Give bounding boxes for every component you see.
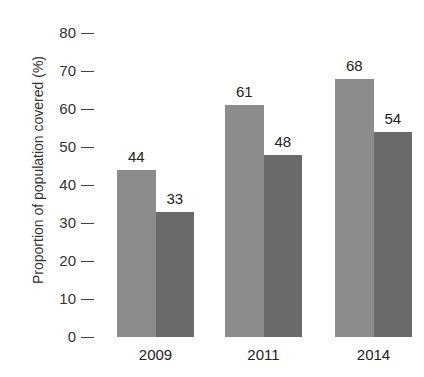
x-category-label: 2009: [116, 346, 196, 363]
y-tick-label: 40: [59, 176, 76, 193]
bar-2014-series-2: [374, 132, 413, 337]
y-tick-label: 70: [59, 62, 76, 79]
bar-value-label: 54: [373, 110, 413, 127]
y-tick: 0: [50, 337, 100, 353]
x-category-label: 2014: [334, 346, 414, 363]
bar-2011-series-2: [264, 155, 303, 337]
bar-2009-series-2: [156, 212, 195, 337]
bar-value-label: 44: [116, 148, 156, 165]
bar-value-label: 48: [263, 133, 303, 150]
bar-value-label: 33: [155, 190, 195, 207]
y-tick-label: 0: [68, 328, 76, 345]
y-tick-mark: [81, 71, 94, 72]
y-tick-mark: [81, 185, 94, 186]
y-tick-label: 50: [59, 138, 76, 155]
bar-value-label: 61: [224, 83, 264, 100]
bar-2014-series-1: [335, 79, 374, 337]
y-tick: 20: [50, 261, 100, 277]
y-tick-mark: [81, 147, 94, 148]
y-tick-label: 20: [59, 252, 76, 269]
y-tick-mark: [81, 337, 94, 338]
y-tick-mark: [81, 109, 94, 110]
y-tick: 30: [50, 223, 100, 239]
x-category-label: 2011: [224, 346, 304, 363]
y-tick-mark: [81, 223, 94, 224]
y-tick-mark: [81, 299, 94, 300]
y-tick: 80: [50, 33, 100, 49]
y-tick-label: 10: [59, 290, 76, 307]
y-tick: 50: [50, 147, 100, 163]
y-tick-label: 60: [59, 100, 76, 117]
y-tick: 70: [50, 71, 100, 87]
bar-value-label: 68: [334, 57, 374, 74]
y-tick: 10: [50, 299, 100, 315]
y-tick-mark: [81, 33, 94, 34]
y-tick: 60: [50, 109, 100, 125]
y-tick-mark: [81, 261, 94, 262]
bar-2011-series-1: [225, 105, 264, 337]
y-tick: 40: [50, 185, 100, 201]
y-tick-label: 30: [59, 214, 76, 231]
bar-2009-series-1: [117, 170, 156, 337]
y-axis-label: Proportion of population covered (%): [30, 84, 46, 284]
y-tick-label: 80: [59, 24, 76, 41]
